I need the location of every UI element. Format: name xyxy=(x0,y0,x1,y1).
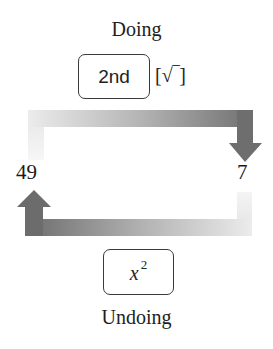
square-root-key-notation: [√‾] xyxy=(155,64,186,87)
x-squared-label: x2 xyxy=(130,260,147,285)
square-root-label: [√‾] xyxy=(155,64,186,86)
left-value: 49 xyxy=(16,160,37,185)
doing-label: Doing xyxy=(0,18,273,41)
doing-arrow xyxy=(28,110,262,162)
x-squared-base: x xyxy=(130,261,139,283)
x-squared-exponent: 2 xyxy=(141,257,148,272)
right-value: 7 xyxy=(237,160,248,185)
arrows-graphic xyxy=(0,0,273,349)
undoing-label: Undoing xyxy=(0,306,273,329)
second-function-key: 2nd xyxy=(78,54,150,99)
x-squared-key: x2 xyxy=(103,249,174,295)
undoing-arrow xyxy=(17,190,252,236)
second-key-label: 2nd xyxy=(98,66,130,88)
